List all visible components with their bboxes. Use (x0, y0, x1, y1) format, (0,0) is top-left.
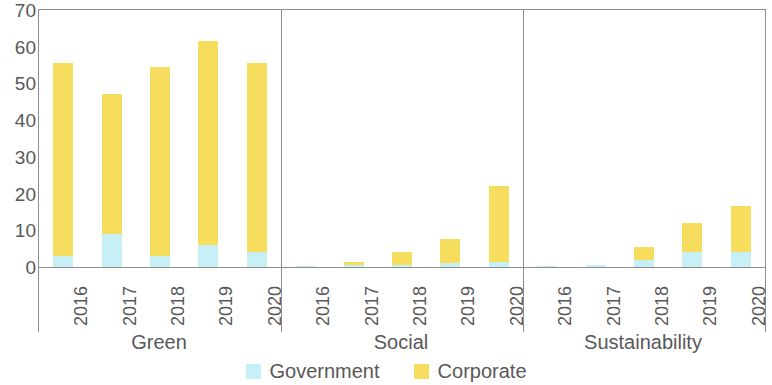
bar-segment-government (440, 263, 460, 267)
bar-green-2019[interactable] (198, 41, 218, 267)
bar-sustainability-2019[interactable] (682, 223, 702, 267)
bar-segment-corporate (682, 223, 702, 252)
group-separator (281, 10, 282, 267)
bar-segment-government (682, 252, 702, 267)
bar-green-2017[interactable] (102, 94, 122, 267)
bar-social-2017[interactable] (344, 262, 364, 268)
x-axis-year-label-green-2019: 2019 (217, 286, 235, 326)
bar-segment-government (537, 266, 557, 267)
bar-segment-corporate (440, 239, 460, 263)
y-axis-tick-30: 30 (2, 147, 36, 166)
bar-segment-government (247, 252, 267, 267)
bar-segment-government (198, 245, 218, 267)
bar-segment-corporate (392, 252, 412, 265)
y-axis-tick-50: 50 (2, 74, 36, 93)
year-band-separator (281, 268, 282, 332)
x-axis-year-label-social-2019: 2019 (459, 286, 477, 326)
bar-segment-corporate (150, 67, 170, 256)
y-axis-tick-70: 70 (2, 1, 36, 20)
bar-segment-government (102, 234, 122, 267)
legend-label-government: Government (270, 361, 380, 381)
y-axis-tick-40: 40 (2, 111, 36, 130)
bar-segment-government (586, 265, 606, 267)
bar-segment-corporate (731, 206, 751, 252)
x-axis-year-label-social-2017: 2017 (363, 286, 381, 326)
bar-segment-government (392, 265, 412, 267)
bar-segment-corporate (247, 63, 267, 252)
x-axis-year-label-sustainability-2018: 2018 (653, 286, 671, 326)
bar-segment-government (731, 252, 751, 267)
x-axis-year-label-sustainability-2019: 2019 (701, 286, 719, 326)
legend-swatch-government (246, 364, 261, 379)
y-axis-tick-20: 20 (2, 184, 36, 203)
x-axis-year-label-social-2018: 2018 (411, 286, 429, 326)
bar-segment-government (344, 265, 364, 267)
y-axis-tick-60: 60 (2, 37, 36, 56)
bar-sustainability-2018[interactable] (634, 247, 654, 267)
bar-sustainability-2016[interactable] (537, 266, 557, 267)
group-label-sustainability: Sustainability (522, 330, 764, 354)
bar-segment-corporate (102, 94, 122, 234)
bar-green-2018[interactable] (150, 67, 170, 267)
bar-sustainability-2017[interactable] (586, 265, 606, 267)
bar-segment-government (634, 260, 654, 267)
y-axis-tick-10: 10 (2, 221, 36, 240)
legend-item-corporate[interactable]: Corporate (414, 361, 527, 381)
plot-inner (39, 10, 765, 267)
bar-green-2016[interactable] (53, 63, 73, 267)
plot-area (38, 9, 766, 268)
group-label-social: Social (280, 330, 522, 354)
legend-label-corporate: Corporate (438, 361, 527, 381)
x-axis-year-band: 2016201720182019202020162017201820192020… (38, 268, 766, 332)
bar-segment-corporate (198, 41, 218, 245)
bar-social-2019[interactable] (440, 239, 460, 267)
bar-segment-government (489, 262, 509, 268)
x-axis-year-label-sustainability-2016: 2016 (556, 286, 574, 326)
bar-social-2016[interactable] (295, 266, 315, 267)
y-axis: 010203040506070 (0, 0, 36, 277)
x-axis-year-label-social-2016: 2016 (314, 286, 332, 326)
x-axis-year-label-sustainability-2017: 2017 (605, 286, 623, 326)
legend-item-government[interactable]: Government (246, 361, 380, 381)
bar-sustainability-2020[interactable] (731, 206, 751, 267)
bar-segment-government (295, 266, 315, 267)
group-label-green: Green (38, 330, 280, 354)
x-axis-year-label-green-2017: 2017 (121, 286, 139, 326)
bar-green-2020[interactable] (247, 63, 267, 267)
legend-swatch-corporate (414, 364, 429, 379)
chart-page: 010203040506070 201620172018201920202016… (0, 0, 772, 385)
y-axis-tick-0: 0 (2, 258, 36, 277)
bar-social-2020[interactable] (489, 186, 509, 267)
bar-segment-corporate (634, 247, 654, 260)
bar-segment-corporate (489, 186, 509, 261)
bar-segment-government (150, 256, 170, 267)
group-separator (523, 10, 524, 267)
x-axis-year-label-sustainability-2020: 2020 (750, 286, 768, 326)
year-band-separator (523, 268, 524, 332)
group-label-row: GreenSocialSustainability (38, 330, 766, 358)
x-axis-year-label-green-2016: 2016 (72, 286, 90, 326)
bar-segment-corporate (53, 63, 73, 256)
chart-legend: GovernmentCorporate (0, 358, 772, 384)
x-axis-year-label-green-2018: 2018 (169, 286, 187, 326)
bar-segment-government (53, 256, 73, 267)
bar-social-2018[interactable] (392, 252, 412, 267)
